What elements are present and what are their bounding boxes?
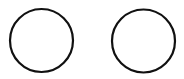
left-circle	[10, 9, 73, 72]
right-circle	[112, 10, 175, 73]
diagram-canvas	[0, 0, 184, 79]
